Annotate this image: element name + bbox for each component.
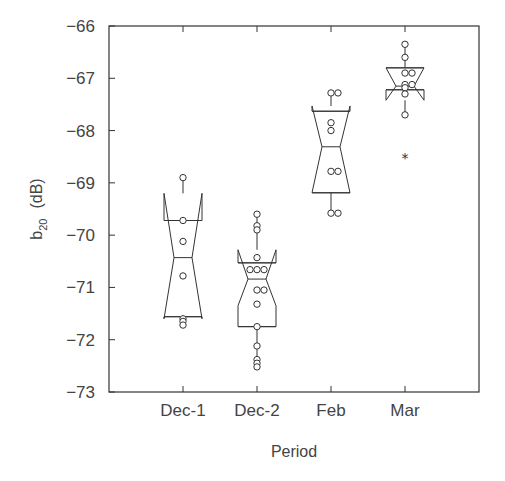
x-axis-title: Period bbox=[271, 443, 317, 460]
box-dec-2 bbox=[238, 211, 276, 370]
data-point bbox=[409, 70, 415, 76]
data-point bbox=[328, 127, 334, 133]
data-point bbox=[254, 254, 260, 260]
data-point bbox=[402, 84, 408, 90]
notched-box-plot: −66−67−68−69−70−71−72−73 Dec-1Dec-2FebMa… bbox=[0, 0, 505, 481]
data-point bbox=[402, 41, 408, 47]
data-point bbox=[247, 266, 253, 272]
y-tick-label: −70 bbox=[66, 226, 95, 245]
data-point bbox=[335, 90, 341, 96]
x-tick-label: Feb bbox=[316, 401, 345, 420]
data-point bbox=[180, 174, 186, 180]
data-point bbox=[254, 364, 260, 370]
data-point bbox=[328, 90, 334, 96]
box-dec-1 bbox=[164, 174, 202, 328]
box-feb bbox=[312, 90, 350, 217]
box-series: * bbox=[164, 41, 424, 370]
data-point bbox=[180, 273, 186, 279]
x-tick-label: Dec-1 bbox=[160, 401, 205, 420]
data-point bbox=[180, 238, 186, 244]
y-tick-label: −71 bbox=[66, 278, 95, 297]
y-tick-label: −68 bbox=[66, 122, 95, 141]
data-point bbox=[328, 210, 334, 216]
y-tick-label: −69 bbox=[66, 174, 95, 193]
data-point bbox=[335, 168, 341, 174]
data-point bbox=[335, 210, 341, 216]
data-point bbox=[254, 287, 260, 293]
x-tick-label: Mar bbox=[390, 401, 420, 420]
y-tick-label: −72 bbox=[66, 331, 95, 350]
data-point bbox=[261, 266, 267, 272]
box-mar: * bbox=[386, 41, 424, 166]
data-point bbox=[402, 112, 408, 118]
svg-text:b20(dB): b20(dB) bbox=[28, 178, 49, 239]
outlier-star-icon: * bbox=[402, 150, 409, 166]
y-axis-title-main: b bbox=[28, 231, 45, 240]
y-axis-title-sub: 20 bbox=[37, 219, 49, 231]
y-tick-label: −67 bbox=[66, 69, 95, 88]
data-point bbox=[254, 211, 260, 217]
data-point bbox=[402, 91, 408, 97]
data-point bbox=[254, 227, 260, 233]
notched-box bbox=[312, 106, 350, 193]
data-point bbox=[328, 120, 334, 126]
y-tick-label: −73 bbox=[66, 383, 95, 402]
data-point bbox=[402, 54, 408, 60]
x-tick-label: Dec-2 bbox=[234, 401, 279, 420]
y-axis-title-unit: (dB) bbox=[28, 178, 45, 208]
notched-box bbox=[164, 193, 202, 318]
data-point bbox=[261, 287, 267, 293]
data-point bbox=[328, 168, 334, 174]
data-point bbox=[409, 81, 415, 87]
data-point bbox=[254, 323, 260, 329]
data-point bbox=[254, 343, 260, 349]
data-point bbox=[402, 70, 408, 76]
data-point bbox=[180, 322, 186, 328]
x-axis: Dec-1Dec-2FebMar bbox=[160, 26, 420, 420]
y-tick-label: −66 bbox=[66, 17, 95, 36]
y-axis-title: b20(dB) bbox=[28, 178, 49, 239]
data-point bbox=[254, 266, 260, 272]
data-point bbox=[254, 301, 260, 307]
data-point bbox=[180, 217, 186, 223]
y-axis: −66−67−68−69−70−71−72−73 bbox=[66, 17, 115, 402]
